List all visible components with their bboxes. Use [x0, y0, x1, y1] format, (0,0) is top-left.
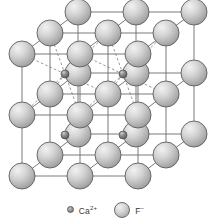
anion-sphere	[95, 20, 121, 46]
anion-sphere	[181, 0, 207, 25]
cation-charge: 2+	[90, 205, 97, 211]
anion-sphere	[181, 60, 207, 86]
cation-sphere	[119, 70, 127, 78]
anion-sphere	[67, 163, 93, 189]
lattice-svg	[0, 0, 211, 224]
anion-sphere	[153, 81, 179, 107]
anion-sphere-icon	[114, 202, 130, 218]
anion-sphere	[9, 102, 35, 128]
cation-sphere-icon	[67, 206, 74, 213]
anion-charge: −	[141, 205, 145, 211]
anion-sphere	[125, 41, 151, 67]
cation-symbol: Ca	[79, 206, 90, 216]
cation-sphere	[61, 131, 69, 139]
anion-sphere	[65, 0, 91, 25]
anion-sphere	[153, 142, 179, 168]
anion-sphere	[37, 20, 63, 46]
cation-sphere	[61, 70, 69, 78]
anion-sphere	[37, 81, 63, 107]
anion-sphere	[95, 142, 121, 168]
anion-sphere	[95, 81, 121, 107]
legend-label-cation: Ca2+	[79, 205, 98, 215]
anion-sphere	[181, 121, 207, 147]
anion-sphere	[9, 41, 35, 67]
legend-item-cation: Ca2+	[67, 205, 98, 215]
anion-sphere	[9, 163, 35, 189]
anion-sphere	[67, 102, 93, 128]
legend-label-anion: F−	[135, 205, 144, 215]
anion-sphere	[67, 41, 93, 67]
anion-sphere	[123, 0, 149, 25]
atoms	[9, 0, 207, 189]
legend-item-anion: F−	[114, 202, 144, 218]
crystal-lattice-figure	[0, 0, 211, 224]
anion-sphere	[153, 20, 179, 46]
anion-sphere	[125, 102, 151, 128]
anion-sphere	[37, 142, 63, 168]
legend: Ca2+ F−	[0, 196, 211, 224]
cation-sphere	[119, 131, 127, 139]
anion-sphere	[125, 163, 151, 189]
